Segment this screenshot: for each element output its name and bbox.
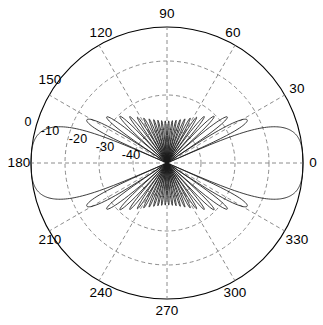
radial-label-m10: -10: [41, 125, 60, 138]
angle-label-300: 300: [223, 286, 246, 300]
radial-label-0: 0: [24, 116, 31, 129]
angle-label-120: 120: [89, 26, 112, 40]
angle-label-210: 210: [38, 233, 61, 247]
angle-label-150: 150: [38, 73, 61, 87]
grid-spoke-210: [49, 163, 167, 231]
angle-label-240: 240: [89, 286, 112, 300]
pattern-trace-array-pattern: [31, 116, 303, 209]
angle-label-60: 60: [225, 26, 240, 40]
angle-label-0: 0: [309, 156, 317, 170]
radial-label-m30: -30: [96, 141, 115, 154]
data-layer: [31, 116, 303, 209]
angle-label-90: 90: [159, 7, 174, 21]
angle-label-180: 180: [7, 156, 30, 170]
angle-label-30: 30: [289, 82, 304, 96]
radial-label-m40: -40: [122, 149, 141, 162]
angle-label-270: 270: [155, 304, 178, 318]
radial-label-m20: -20: [69, 133, 88, 146]
polar-plot-canvas: [0, 0, 323, 325]
angle-label-330: 330: [285, 233, 308, 247]
grid-spoke-30: [167, 95, 285, 163]
polar-plot-figure: 03060901201501802102402703003300-10-20-3…: [0, 0, 323, 325]
